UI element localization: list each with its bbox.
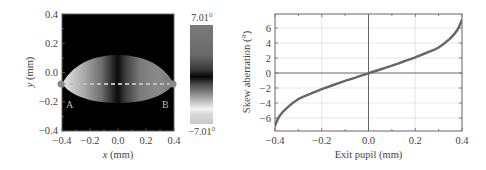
left-ytick-2: 0.0 xyxy=(45,67,58,78)
left-xtick-2: 0.0 xyxy=(111,135,124,146)
colorbar xyxy=(190,25,213,124)
left-xtick-4: 0.4 xyxy=(167,135,181,146)
left-ytick-0: 0.4 xyxy=(45,9,59,20)
heatmap-panel: A B 0.4 0.2 0.0 −0.2 −0.4 −0.4 −0.2 0.0 … xyxy=(24,9,216,161)
marker-b xyxy=(170,81,177,88)
right-ytick-neg4: −4 xyxy=(260,98,272,109)
right-xtick-3: 0.2 xyxy=(409,135,422,146)
right-xtick-4: 0.4 xyxy=(455,135,469,146)
right-x-axis-label: Exit pupil (mm) xyxy=(335,149,403,161)
left-xtick-0: −0.4 xyxy=(52,135,72,146)
right-ytick-0: 0 xyxy=(266,68,271,79)
left-xtick-1: −0.2 xyxy=(80,135,99,146)
right-ytick-2: 2 xyxy=(266,53,271,64)
left-ytick-1: 0.2 xyxy=(45,38,58,49)
left-xtick-3: 0.2 xyxy=(139,135,152,146)
right-y-axis-label: Skew aberration (°) xyxy=(241,30,253,113)
colorbar-min-label: −7.01° xyxy=(188,126,215,137)
left-y-axis-label: y (mm) xyxy=(24,56,36,88)
line-chart-panel: 6 4 2 0 −2 −4 −6 −0.4 −0.2 0.0 0.2 0.4 E… xyxy=(241,14,469,161)
point-a-label: A xyxy=(66,99,74,110)
right-ytick-4: 4 xyxy=(266,38,272,49)
right-ytick-6: 6 xyxy=(266,23,271,34)
right-xtick-0: −0.4 xyxy=(265,135,285,146)
figure: A B 0.4 0.2 0.0 −0.2 −0.4 −0.4 −0.2 0.0 … xyxy=(0,0,486,170)
right-xtick-1: −0.2 xyxy=(312,135,331,146)
marker-a xyxy=(58,81,65,88)
right-ytick-neg2: −2 xyxy=(260,83,271,94)
right-xtick-2: 0.0 xyxy=(362,135,375,146)
point-b-label: B xyxy=(162,99,169,110)
left-x-axis-label: x (mm) xyxy=(102,149,134,161)
right-ytick-neg6: −6 xyxy=(260,113,271,124)
colorbar-max-label: 7.01° xyxy=(191,12,213,23)
left-ytick-3: −0.2 xyxy=(39,96,58,107)
